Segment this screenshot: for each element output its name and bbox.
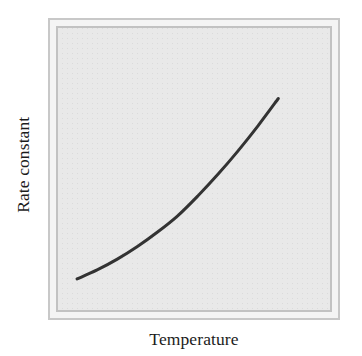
y-axis-label-container: Rate constant — [0, 0, 48, 330]
rate-constant-curve — [77, 99, 278, 279]
chart-canvas — [58, 28, 330, 310]
chart-figure: Rate constant Temperature — [0, 0, 362, 356]
y-axis-label: Rate constant — [15, 117, 33, 213]
x-axis-label: Temperature — [149, 331, 238, 349]
plot-area — [56, 26, 332, 312]
plot-frame — [48, 18, 340, 320]
x-axis-label-container: Temperature — [48, 326, 340, 354]
